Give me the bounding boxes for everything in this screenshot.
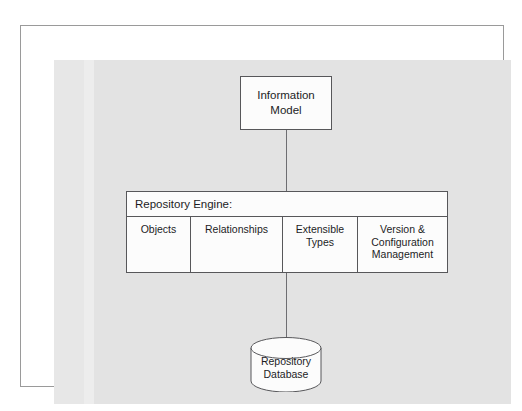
node-repository-engine: Repository Engine: Objects Relationships… — [126, 191, 448, 273]
engine-cell-version-line2: Configuration — [371, 236, 433, 249]
node-repository-database: Repository Database — [250, 337, 322, 392]
connector-model-to-engine — [286, 130, 287, 191]
diagram-canvas: Information Model Repository Engine: Obj… — [0, 0, 522, 411]
engine-cell-objects-line1: Objects — [141, 223, 177, 236]
engine-cell-version-line1: Version & — [371, 223, 433, 236]
node-information-model: Information Model — [240, 76, 332, 130]
engine-cell-version-configuration-management: Version & Configuration Management — [358, 217, 447, 272]
engine-cell-objects: Objects — [127, 217, 191, 272]
engine-cell-version-line3: Management — [371, 248, 433, 261]
engine-cell-relationships: Relationships — [191, 217, 283, 272]
database-cylinder-icon — [250, 337, 322, 392]
page-panel-left-shade — [54, 60, 84, 404]
repository-engine-columns: Objects Relationships Extensible Types — [127, 217, 447, 272]
diagram-outer-frame: Information Model Repository Engine: Obj… — [20, 25, 504, 387]
connector-engine-to-database — [286, 273, 287, 339]
information-model-line1: Information — [257, 88, 315, 103]
page-panel-light-band — [84, 60, 94, 404]
engine-cell-extensible-types: Extensible Types — [283, 217, 358, 272]
engine-cell-relationships-line1: Relationships — [205, 223, 268, 236]
engine-cell-extensible-types-line2: Types — [296, 236, 344, 249]
repository-engine-header: Repository Engine: — [127, 192, 447, 217]
engine-cell-extensible-types-line1: Extensible — [296, 223, 344, 236]
information-model-line2: Model — [257, 103, 315, 118]
